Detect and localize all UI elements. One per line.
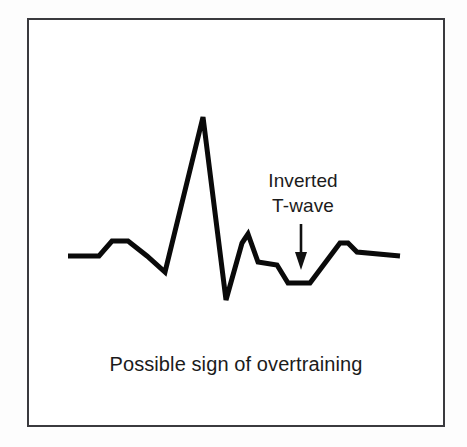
- arrow-head-triangle: [295, 252, 307, 270]
- ecg-waveform-chart: [0, 0, 467, 447]
- annotation-down-arrow: [295, 224, 307, 270]
- annotation-line-2: T-wave: [272, 195, 334, 216]
- annotation-label: InvertedT-wave: [253, 168, 353, 218]
- figure-caption: Possible sign of overtraining: [27, 352, 445, 376]
- annotation-line-1: Inverted: [268, 170, 337, 191]
- figure-root: InvertedT-wave Possible sign of overtrai…: [0, 0, 467, 447]
